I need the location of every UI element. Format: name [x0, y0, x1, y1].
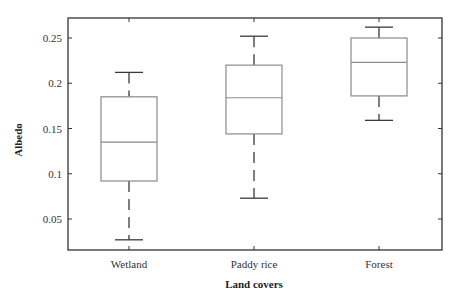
box-forest	[351, 27, 407, 120]
y-tick-label: 0.1	[48, 168, 62, 180]
x-tick-label: Forest	[365, 258, 393, 270]
y-tick-label: 0.2	[48, 77, 62, 89]
box-plot: 0.050.10.150.20.25 WetlandPaddy riceFore…	[0, 0, 464, 302]
x-axis-title: Land covers	[225, 278, 283, 290]
y-tick-label: 0.15	[43, 123, 63, 135]
y-tick-label: 0.05	[43, 213, 63, 225]
iqr-box	[101, 97, 157, 181]
y-tick-label: 0.25	[43, 32, 63, 44]
x-tick-label: Wetland	[111, 258, 148, 270]
x-tick-label: Paddy rice	[231, 258, 278, 270]
boxes	[101, 27, 407, 240]
box-paddy-rice	[226, 36, 282, 198]
box-wetland	[101, 72, 157, 239]
iqr-box	[351, 38, 407, 96]
iqr-box	[226, 65, 282, 134]
y-axis-title: Albedo	[12, 123, 24, 157]
